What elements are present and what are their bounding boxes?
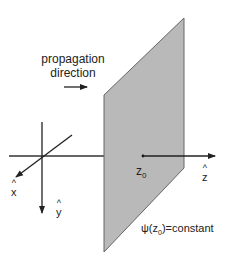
y-hat-label: ^ y <box>56 200 62 218</box>
x-hat-label: ^ x <box>11 180 17 198</box>
direction-text: direction <box>35 66 111 80</box>
x-letter: x <box>11 186 17 198</box>
z0-label: z0 <box>136 164 146 180</box>
propagation-direction-label: propagation direction <box>35 52 111 80</box>
z0-subscript: 0 <box>142 171 146 180</box>
z-letter: z <box>202 171 208 183</box>
y-letter: y <box>56 206 62 218</box>
wavefront-plane <box>104 18 184 252</box>
z-hat-label: ^ z <box>202 165 208 183</box>
constant-text: )=constant <box>162 222 214 234</box>
psi-text: ψ(z <box>141 222 158 234</box>
propagation-text: propagation <box>35 52 111 66</box>
wavefront-label: ψ(z0)=constant <box>141 222 214 236</box>
